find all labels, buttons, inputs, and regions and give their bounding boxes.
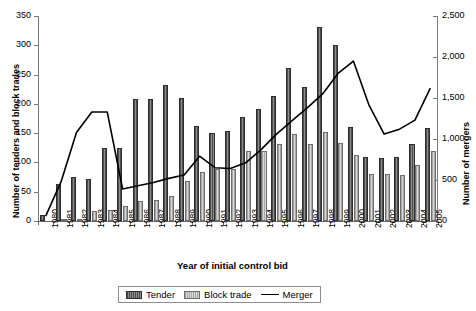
legend-item: Merger — [261, 289, 313, 300]
bar-hatched-light-swatch — [184, 291, 200, 299]
line-swatch — [261, 294, 279, 295]
y-tick-label-right: 2,500 — [442, 11, 476, 20]
y-tick-label-left: 300 — [0, 40, 31, 49]
y-tick-label-left: 250 — [0, 70, 31, 79]
y-tick-label-left: 100 — [0, 157, 31, 166]
y-tick-label-right: 500 — [442, 175, 476, 184]
y-tick-label-left: 150 — [0, 128, 31, 137]
legend-label: Block trade — [204, 289, 252, 300]
chart-legend: TenderBlock tradeMerger — [118, 286, 321, 303]
legend-label: Merger — [283, 289, 313, 300]
legend-label: Tender — [146, 289, 175, 300]
y-tick-label-right: 1,000 — [442, 134, 476, 143]
x-axis-title: Year of initial control bid — [0, 260, 465, 271]
y-tick-label-left: 50 — [0, 187, 31, 196]
merger-line-path — [46, 61, 431, 216]
merger-line-series — [38, 16, 438, 222]
bar-hatched-dark-swatch — [126, 291, 142, 299]
y-tick-label-left: 0 — [0, 216, 31, 225]
y-tick-label-right: 2,000 — [442, 52, 476, 61]
y-tick-label-right: 1,500 — [442, 93, 476, 102]
legend-item: Tender — [126, 289, 175, 300]
y-tick-label-left: 200 — [0, 99, 31, 108]
plot-area: 050100150200250300350 05001,0001,5002,00… — [38, 16, 438, 222]
y-tick-label-right: 0 — [442, 216, 476, 225]
y-tick-label-left: 350 — [0, 11, 31, 20]
legend-item: Block trade — [184, 289, 252, 300]
